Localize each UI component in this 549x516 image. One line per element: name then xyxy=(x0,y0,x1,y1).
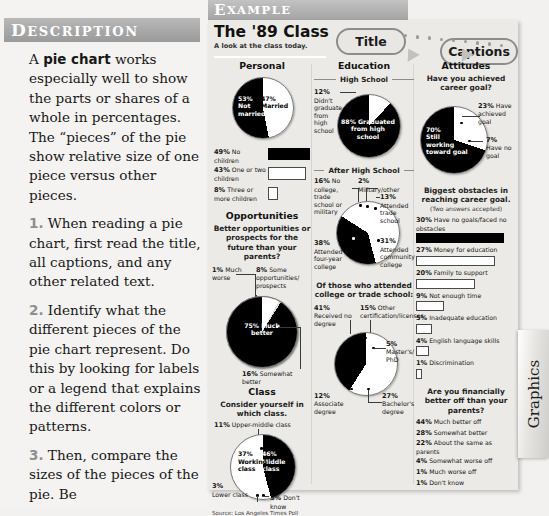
bar-group-0: 49% No children xyxy=(212,146,312,164)
obstacle-bar-label: 27% Money for education xyxy=(416,246,516,255)
obstacle-bar-label: 20% Family to support xyxy=(416,269,516,278)
financial-list-item: 22% About the same as parents xyxy=(416,439,516,455)
pie-callout-masters: 5% Master's/ PhD xyxy=(386,340,414,364)
description-column: DESCRIPTION A pie chart works especially… xyxy=(0,0,208,507)
column-title-education: Education xyxy=(314,60,414,71)
divider-label-after-high-school: After High School xyxy=(328,166,399,175)
callout-dot xyxy=(464,40,467,43)
callout-dot xyxy=(452,39,455,42)
pie-label-working-class: 37%Workingclass xyxy=(238,450,267,472)
leader-4 xyxy=(278,327,300,328)
obstacle-bar-row: 4% English language skills xyxy=(416,337,516,357)
callout-dot xyxy=(428,36,431,39)
column-title-personal: Personal xyxy=(212,60,312,71)
financial-list-item: 1% Much worse off xyxy=(416,468,516,477)
bar-label-1: 43% One or two children xyxy=(214,166,266,182)
obstacle-bar-row: 30% Have no goals/faced no obstacles xyxy=(416,216,516,243)
bar-group-1: 43% One or two children xyxy=(212,164,312,184)
pie-dot-h xyxy=(366,205,369,208)
description-paragraph: 1. When reading a pie chart, first read … xyxy=(29,214,201,292)
leader-13 xyxy=(366,188,378,189)
bar-group-2: 8% Three or more children xyxy=(212,184,312,204)
obstacle-bar-fill xyxy=(416,233,504,243)
chart-obstacles-bars: 30% Have no goals/faced no obstacles27% … xyxy=(416,216,516,379)
obstacle-bar-row: 27% Money for education xyxy=(416,246,516,266)
chart-personal-married: 47%Married 53%Notmarried xyxy=(212,74,312,144)
question-financial: Are you financially better off than your… xyxy=(416,387,516,415)
obstacle-bar-row: 20% Family to support xyxy=(416,269,516,289)
obstacle-bar-fill xyxy=(416,324,432,334)
leader-15 xyxy=(350,320,351,334)
divider-high-school: High School xyxy=(314,75,414,84)
pie-dot-j xyxy=(352,237,355,240)
pie-callout-dont-know: 3% Don't know xyxy=(270,494,312,510)
title-rule xyxy=(214,56,326,58)
chart-opportunities: 1% Much worse 8% Some opportunities/ pro… xyxy=(212,264,312,382)
column-title-opportunities: Opportunities xyxy=(212,210,312,221)
pie-dot-k xyxy=(377,239,380,242)
leader-21 xyxy=(471,141,483,142)
callout-dot xyxy=(476,41,479,44)
infographic-title-block: The '89 Class A look at the class today. xyxy=(214,24,334,51)
callout-dot xyxy=(488,42,491,45)
obstacle-bar-label: 4% English language skills xyxy=(416,337,516,346)
bar-fill-1 xyxy=(268,167,306,180)
pie-callout-achieved: 23% Have achieved goal xyxy=(478,102,514,126)
pie-label-not-married: 53%Notmarried xyxy=(238,95,265,117)
question-college: Of those who attended college or trade s… xyxy=(314,281,414,300)
divider-after-high-school: After High School xyxy=(314,166,414,175)
question-obstacles: Biggest obstacles in reaching career goa… xyxy=(416,186,516,205)
pie-callout-upper-middle: 11% Upper-middle class xyxy=(214,421,291,430)
bar-label-2: 8% Three or more children xyxy=(214,186,266,202)
leader-17 xyxy=(374,348,386,349)
pie-callout-four-year: 38% Attended a four-year college xyxy=(314,239,350,270)
pie-label-still-working: 70%Stillworkingtoward goal xyxy=(426,126,468,156)
leader-5 xyxy=(300,327,301,369)
leader-18 xyxy=(368,390,369,402)
column-title-class: Class xyxy=(212,386,312,397)
pie-dot-g xyxy=(359,204,362,207)
column-attitudes: Attitudes Have you achieved career goal?… xyxy=(416,60,516,489)
graphics-tab[interactable]: Graphics xyxy=(518,330,549,458)
obstacle-bar-row: 1% Discrimination xyxy=(416,359,516,379)
obstacle-bar-label: 1% Discrimination xyxy=(416,359,516,368)
callout-dot xyxy=(404,34,407,37)
obstacle-bar-fill xyxy=(416,369,422,379)
description-header: DESCRIPTION xyxy=(4,18,200,42)
example-panel: The '89 Class A look at the class today.… xyxy=(208,20,518,490)
bar-fill-2 xyxy=(268,187,278,200)
financial-list-item: 28% Somewhat better xyxy=(416,429,516,438)
chart-personal-children: 49% No children 43% One or two children … xyxy=(212,146,312,204)
chart-after-high-school: 16% No college, trade school or military… xyxy=(314,177,414,277)
pie-callout-some-opps: 8% Some opportunities/ prospects xyxy=(256,266,308,290)
pie-dot-i xyxy=(374,207,377,210)
obstacle-bar-fill xyxy=(416,346,429,356)
leader-19 xyxy=(368,402,382,403)
chart-career-goal: 70%Stillworkingtoward goal 23% Have achi… xyxy=(416,96,516,182)
graphics-tab-label: Graphics xyxy=(525,360,543,428)
leader-14 xyxy=(376,197,380,198)
leader-9 xyxy=(340,92,356,93)
pie-dot-a xyxy=(259,304,262,307)
example-header-cap: E xyxy=(208,3,227,18)
financial-list-item: 44% Much better off xyxy=(416,418,516,427)
obstacle-bar-fill xyxy=(416,301,444,311)
pie-callout-somewhat-better: 16% Somewhat better xyxy=(242,370,312,386)
infographic-subtitle: A look at the class today. xyxy=(214,42,334,51)
column-title-attitudes: Attitudes xyxy=(416,60,516,71)
bar-fill-0 xyxy=(268,148,310,160)
example-header: EXAMPLE xyxy=(208,0,408,20)
financial-list-item: 1% Don't know xyxy=(416,479,516,488)
description-body: A pie chart works especially well to sho… xyxy=(29,50,201,513)
divider-label-high-school: High School xyxy=(340,75,388,84)
description-header-rest: ESCRIPTION xyxy=(27,23,138,38)
obstacle-bar-fill xyxy=(416,279,475,289)
question-opportunities: Better opportunities or prospects for th… xyxy=(212,224,312,262)
chart-college-degrees: 41% Received no degree 15% Other certifi… xyxy=(314,302,414,414)
pie-callout-bachelors: 27% Bachelor's degree xyxy=(382,392,414,416)
chart-class: 11% Upper-middle class 46%Middleclass 37… xyxy=(212,420,312,506)
leader-8 xyxy=(263,496,269,497)
bar-label-0: 49% No children xyxy=(214,148,266,164)
obstacle-bar-row: 9% Not enough time xyxy=(416,292,516,312)
